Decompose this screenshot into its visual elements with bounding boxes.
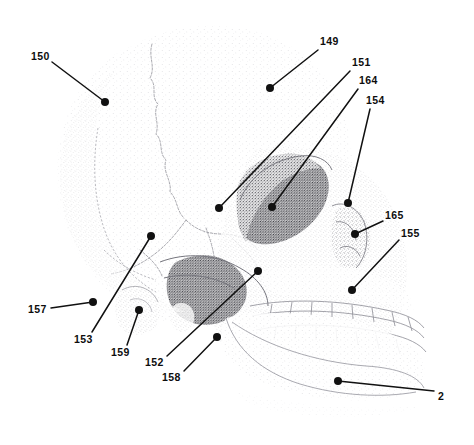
- skull-illustration: [0, 0, 474, 445]
- callout-label-159[interactable]: 159: [111, 347, 130, 358]
- callout-label-2[interactable]: 2: [438, 391, 444, 402]
- leader-dot[interactable]: [215, 204, 223, 212]
- leader-dot[interactable]: [101, 98, 109, 106]
- callout-label-154[interactable]: 154: [366, 95, 385, 106]
- nasal-aperture: [326, 198, 380, 278]
- leader-dot[interactable]: [89, 298, 97, 306]
- leader-dot[interactable]: [334, 377, 342, 385]
- leader-dot[interactable]: [147, 232, 155, 240]
- leader-dot[interactable]: [268, 203, 276, 211]
- leader-dot[interactable]: [135, 306, 143, 314]
- callout-label-153[interactable]: 153: [74, 334, 93, 345]
- callout-label-158[interactable]: 158: [162, 372, 181, 383]
- anatomical-figure: 150 149 151 164 154 165 155 2 157 153 15…: [0, 0, 474, 445]
- callout-label-150[interactable]: 150: [31, 51, 50, 62]
- callout-label-165[interactable]: 165: [385, 210, 404, 221]
- leader-dot[interactable]: [344, 199, 352, 207]
- leader-dot[interactable]: [254, 267, 262, 275]
- callout-label-152[interactable]: 152: [145, 357, 164, 368]
- leader-dot[interactable]: [266, 84, 274, 92]
- leader-dot[interactable]: [351, 230, 359, 238]
- leader-dot[interactable]: [348, 286, 356, 294]
- callout-label-164[interactable]: 164: [359, 75, 378, 86]
- callout-label-151[interactable]: 151: [352, 57, 371, 68]
- callout-label-155[interactable]: 155: [401, 228, 420, 239]
- callout-label-149[interactable]: 149: [320, 36, 339, 47]
- leader-dot[interactable]: [213, 333, 221, 341]
- callout-label-157[interactable]: 157: [28, 304, 47, 315]
